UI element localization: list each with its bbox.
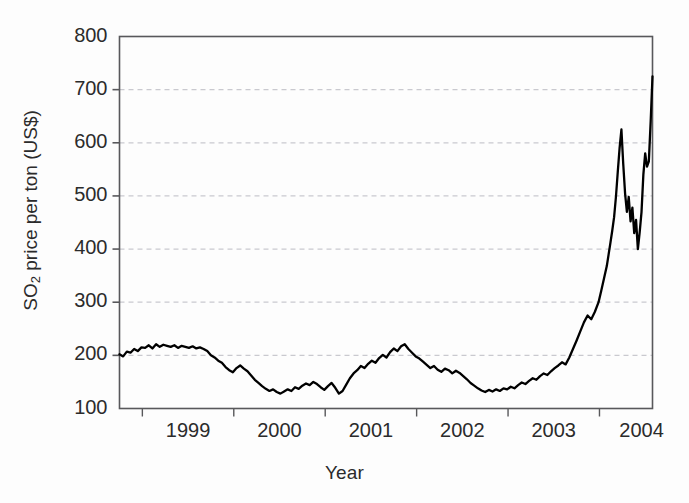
y-axis-tick-marks (113, 90, 120, 356)
plot-canvas (0, 0, 689, 503)
x-axis-tick-marks (142, 409, 599, 417)
figure-chart: SO2 price per ton (US$) Year 10020030040… (0, 0, 689, 503)
data-series-line (120, 76, 653, 393)
grid-lines (120, 90, 653, 356)
